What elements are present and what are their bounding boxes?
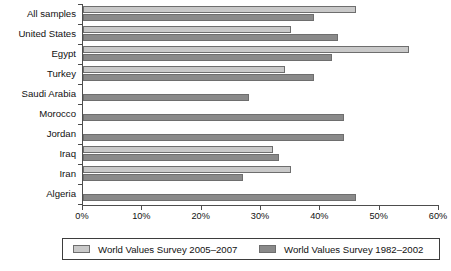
y-axis-tick bbox=[78, 164, 82, 165]
bar bbox=[83, 174, 243, 181]
bar bbox=[83, 66, 285, 73]
bar-group bbox=[83, 24, 439, 44]
bar bbox=[83, 146, 273, 153]
category-label: Jordan bbox=[47, 124, 76, 144]
category-label: Iraq bbox=[59, 144, 76, 164]
bar bbox=[83, 46, 409, 53]
x-axis-tick-label: 40% bbox=[299, 211, 339, 221]
x-axis-tick bbox=[141, 205, 142, 210]
bar bbox=[83, 114, 344, 121]
x-axis-tick-label: 0% bbox=[62, 211, 102, 221]
x-axis-tick bbox=[201, 205, 202, 210]
legend-swatch-icon bbox=[259, 245, 276, 253]
bar bbox=[83, 154, 279, 161]
y-axis-tick bbox=[78, 4, 82, 5]
category-label: Morocco bbox=[39, 104, 76, 124]
bar bbox=[83, 134, 344, 141]
y-axis-tick bbox=[78, 104, 82, 105]
legend: World Values Survey 2005–2007 World Valu… bbox=[62, 238, 440, 260]
bar bbox=[83, 74, 314, 81]
x-axis-tick-label: 50% bbox=[359, 211, 399, 221]
x-axis: 0%10%20%30%40%50%60% bbox=[82, 205, 439, 227]
legend-item-1982-2002: World Values Survey 1982–2002 bbox=[259, 242, 423, 256]
bar-chart: All samples United States Egypt Turkey S… bbox=[0, 0, 451, 271]
bar-group bbox=[83, 144, 439, 164]
bar-group bbox=[83, 64, 439, 84]
legend-item-2005-2007: World Values Survey 2005–2007 bbox=[73, 242, 237, 256]
x-axis-tick bbox=[379, 205, 380, 210]
bar-group bbox=[83, 124, 439, 144]
bar bbox=[83, 6, 356, 13]
bars-and-value-axis bbox=[82, 4, 438, 204]
bar bbox=[83, 14, 314, 21]
bar-group bbox=[83, 84, 439, 104]
x-axis-tick-label: 60% bbox=[418, 211, 451, 221]
bar-group bbox=[83, 104, 439, 124]
category-label: Turkey bbox=[47, 64, 76, 84]
category-label: Egypt bbox=[51, 44, 76, 64]
legend-label: World Values Survey 2005–2007 bbox=[98, 244, 237, 255]
x-axis-tick-label: 30% bbox=[240, 211, 280, 221]
y-axis-tick bbox=[78, 24, 82, 25]
x-axis-tick bbox=[438, 205, 439, 210]
x-axis-tick bbox=[82, 205, 83, 210]
y-axis-tick bbox=[78, 124, 82, 125]
bar bbox=[83, 194, 356, 201]
legend-swatch-icon bbox=[73, 245, 90, 253]
bar bbox=[83, 166, 291, 173]
bar-group bbox=[83, 44, 439, 64]
bar bbox=[83, 94, 249, 101]
legend-label: World Values Survey 1982–2002 bbox=[284, 244, 423, 255]
x-axis-tick bbox=[319, 205, 320, 210]
category-label: Saudi Arabia bbox=[22, 84, 76, 104]
bar-group bbox=[83, 184, 439, 204]
y-axis-tick bbox=[78, 64, 82, 65]
category-axis-labels: All samples United States Egypt Turkey S… bbox=[0, 4, 80, 204]
category-label: Iran bbox=[59, 164, 76, 184]
x-axis-tick bbox=[260, 205, 261, 210]
category-label: United States bbox=[18, 24, 76, 44]
y-axis-tick bbox=[78, 44, 82, 45]
bar-group bbox=[83, 4, 439, 24]
x-axis-tick-label: 10% bbox=[121, 211, 161, 221]
y-axis-tick bbox=[78, 184, 82, 185]
y-axis-tick bbox=[78, 84, 82, 85]
category-label: All samples bbox=[27, 4, 76, 24]
bar bbox=[83, 26, 291, 33]
plot-area: All samples United States Egypt Turkey S… bbox=[0, 4, 451, 209]
bar bbox=[83, 34, 338, 41]
bar-group bbox=[83, 164, 439, 184]
category-label: Algeria bbox=[46, 184, 76, 204]
bar bbox=[83, 54, 332, 61]
y-axis-tick bbox=[78, 144, 82, 145]
x-axis-tick-label: 20% bbox=[181, 211, 221, 221]
